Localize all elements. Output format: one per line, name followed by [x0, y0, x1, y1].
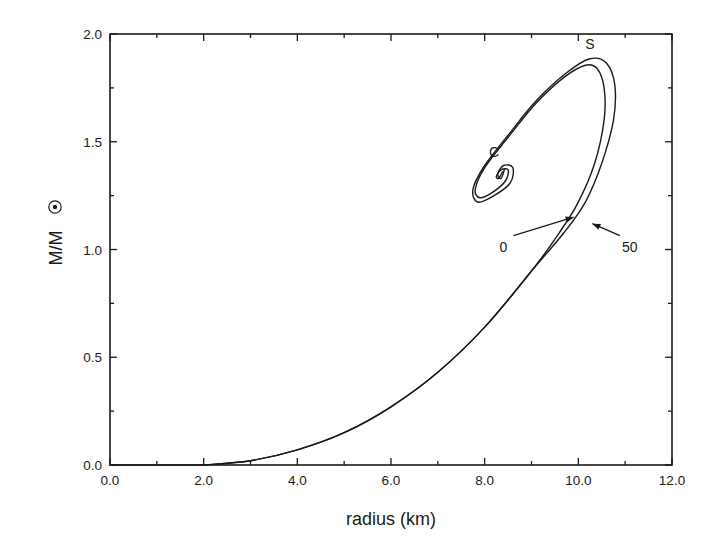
y-axis-title: M/M [46, 231, 66, 266]
y-axis-title-text: M/M [46, 231, 66, 266]
y-tick-label: 2.0 [83, 27, 102, 42]
arrowhead-icon [592, 224, 601, 230]
mass-radius-chart: 0.02.04.06.08.010.012.00.00.51.01.52.0 S… [0, 0, 719, 557]
annotation-c-label: C [489, 144, 499, 160]
annotation-fifty-label: 50 [622, 239, 638, 255]
x-tick-label: 0.0 [101, 473, 120, 488]
x-tick-label: 12.0 [659, 473, 685, 488]
y-tick-label: 0.0 [83, 458, 102, 473]
plot-frame [110, 34, 672, 465]
axis-ticks [110, 34, 672, 465]
curves [110, 58, 615, 465]
curve-50 [204, 58, 616, 465]
x-tick-label: 10.0 [565, 473, 591, 488]
y-tick-label: 1.5 [83, 135, 102, 150]
x-tick-label: 8.0 [475, 473, 494, 488]
y-tick-label: 0.5 [83, 350, 102, 365]
annotation-zero-label: 0 [500, 239, 508, 255]
x-tick-label: 2.0 [194, 473, 213, 488]
annotations: SC050 [489, 36, 638, 255]
y-tick-label: 1.0 [83, 243, 102, 258]
tick-labels: 0.02.04.06.08.010.012.00.00.51.01.52.0 [83, 27, 685, 488]
annotation-s-label: S [585, 36, 594, 52]
curve-0 [204, 65, 605, 465]
x-axis-title: radius (km) [346, 509, 436, 529]
sun-symbol-icon [49, 201, 61, 213]
x-tick-label: 4.0 [288, 473, 307, 488]
x-tick-label: 6.0 [382, 473, 401, 488]
